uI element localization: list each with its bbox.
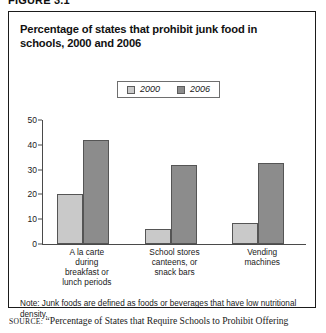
source-keyword: SOURCE: — [9, 317, 43, 326]
bar-2000-2[interactable] — [232, 223, 258, 244]
legend-label-2000: 2000 — [140, 85, 160, 94]
page-title: Percentage of states that prohibit junk … — [20, 22, 303, 50]
bar-2000-0[interactable] — [57, 194, 83, 244]
category-label-line: lunch periods — [43, 277, 131, 287]
x-axis-category-labels: A la carteduringbreakfast orlunch period… — [43, 247, 306, 299]
legend-item-2000[interactable]: 2000 — [127, 85, 160, 94]
bar-2006-2[interactable] — [258, 163, 284, 244]
figure-box: Percentage of states that prohibit junk … — [8, 11, 316, 308]
x-axis-line — [42, 244, 306, 245]
chart-legend: 2000 2006 — [117, 81, 220, 98]
bar-chart: 01020304050 A la carteduringbreakfast or… — [20, 120, 306, 260]
category-label-line: snack bars — [131, 267, 219, 277]
y-axis-tick-label: 0 — [32, 239, 37, 249]
category-label-line: School stores — [131, 247, 219, 257]
y-axis-tick-label: 40 — [28, 140, 37, 150]
source-line: SOURCE: “Percentage of States that Requi… — [9, 315, 323, 327]
y-axis-tick-label: 20 — [28, 189, 37, 199]
bar-2000-1[interactable] — [145, 229, 171, 244]
legend-item-2006[interactable]: 2006 — [177, 85, 210, 94]
legend-label-2006: 2006 — [190, 85, 210, 94]
category-label-line: machines — [218, 257, 306, 267]
bar-group — [218, 120, 306, 244]
bar-2006-0[interactable] — [83, 140, 109, 244]
bar-group — [131, 120, 219, 244]
y-axis-tick-label: 30 — [28, 165, 37, 175]
category-label-2: Vendingmachines — [218, 247, 306, 267]
category-label-0: A la carteduringbreakfast orlunch period… — [43, 247, 131, 287]
y-axis: 01020304050 — [20, 120, 42, 244]
category-label-line: Vending — [218, 247, 306, 257]
category-label-1: School storescanteens, orsnack bars — [131, 247, 219, 277]
bar-group — [43, 120, 131, 244]
legend-swatch-2000 — [127, 86, 135, 94]
source-text: “Percentage of States that Require Schoo… — [46, 315, 289, 326]
bars-container — [43, 120, 306, 244]
category-label-line: A la carte — [43, 247, 131, 257]
category-label-line: breakfast or — [43, 267, 131, 277]
bar-2006-1[interactable] — [171, 165, 197, 244]
category-label-line: canteens, or — [131, 257, 219, 267]
legend-swatch-2006 — [177, 86, 185, 94]
category-label-line: during — [43, 257, 131, 267]
figure-label: FIGURE 3.1 — [8, 0, 70, 6]
y-axis-tick-label: 50 — [28, 115, 37, 125]
y-axis-tick-label: 10 — [28, 214, 37, 224]
